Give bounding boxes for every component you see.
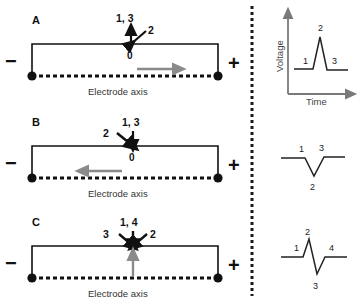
panel-b-electrode-bracket: [32, 146, 218, 178]
panel-b-positive-sign: +: [228, 154, 240, 176]
waveform-c-label-4: 4: [329, 243, 334, 253]
panel-b-vector-label-1-3: 1, 3: [122, 116, 140, 128]
panel-b: B − + 1, 3 2 0 Electrode axis: [5, 116, 240, 199]
waveform-c-label-2: 2: [305, 227, 310, 237]
panel-b-vector-arrow-down-right: [117, 133, 133, 146]
time-axis-label: Time: [306, 96, 327, 107]
panel-c-vector-label-2: 2: [150, 228, 156, 240]
panel-b-electrode-dot-negative: [27, 173, 36, 182]
panel-a: A − + 1, 3 2 0 Electrode axis: [5, 12, 240, 97]
waveform-b-label-2: 2: [310, 182, 315, 192]
panel-a-vector-label-2: 2: [148, 24, 154, 36]
panel-a-negative-sign: −: [5, 50, 17, 72]
waveform-b-label-3: 3: [319, 143, 324, 153]
waveform-panel-a: Voltage Time 1 2 3: [274, 14, 350, 107]
voltage-axis-label: Voltage: [274, 40, 285, 72]
panel-b-origin-label: 0: [129, 152, 135, 163]
waveform-a-label-1: 1: [303, 56, 308, 66]
waveform-b-label-1: 1: [299, 144, 304, 154]
panel-c-vector-label-3: 3: [103, 228, 109, 240]
panel-c-electrode-bracket: [32, 246, 218, 278]
panel-b-electrode-dot-positive: [213, 173, 222, 182]
panel-b-letter: B: [32, 116, 40, 128]
panel-c-vector-label-1-4: 1, 4: [120, 216, 138, 228]
figure-root: A − + 1, 3 2 0 Electrode axis B: [0, 0, 358, 302]
panel-a-axis-label: Electrode axis: [88, 86, 148, 97]
panel-c-electrode-dot-positive: [213, 273, 222, 282]
panel-a-origin-label: 0: [127, 50, 133, 61]
panel-a-vector-arrow-down-right: [131, 31, 146, 44]
panel-a-electrode-dot-positive: [213, 71, 222, 80]
waveform-a-label-2: 2: [318, 23, 323, 33]
panel-c-vector-arrow-down-right: [119, 234, 133, 246]
panel-c-electrode-dot-negative: [27, 273, 36, 282]
panel-a-electrode-dot-negative: [27, 71, 36, 80]
panel-a-letter: A: [32, 14, 40, 26]
panel-a-vector-label-1-3: 1, 3: [116, 12, 134, 24]
panel-b-negative-sign: −: [5, 152, 17, 174]
panel-c-letter: C: [32, 216, 40, 228]
waveform-c-label-3: 3: [313, 281, 318, 291]
panel-c-axis-label: Electrode axis: [88, 288, 148, 299]
panel-b-axis-label: Electrode axis: [88, 188, 148, 199]
panel-c-positive-sign: +: [228, 254, 240, 276]
waveform-c-trace: [281, 239, 347, 274]
panel-a-positive-sign: +: [228, 52, 240, 74]
waveform-panel-c: 1 2 3 4: [281, 227, 347, 291]
waveform-a-label-3: 3: [332, 56, 337, 66]
waveform-panel-b: 1 2 3: [281, 143, 345, 192]
waveform-b-trace: [281, 157, 345, 176]
waveform-c-label-1: 1: [294, 243, 299, 253]
panel-c: C − + 1, 4 3 2 Electrode axis: [5, 216, 240, 299]
panel-b-vector-label-2: 2: [103, 127, 109, 139]
panel-a-electrode-bracket: [32, 44, 218, 76]
panel-c-vector-arrow-down-left: [133, 234, 147, 246]
panel-c-negative-sign: −: [5, 252, 17, 274]
